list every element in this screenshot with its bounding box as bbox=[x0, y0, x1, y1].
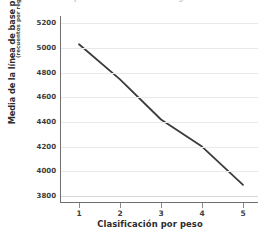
x-axis-title: Clasificación por peso bbox=[40, 219, 260, 229]
y-tick-label: 4600 bbox=[30, 93, 56, 101]
gridline bbox=[61, 97, 258, 98]
data-series-line bbox=[61, 16, 258, 202]
y-tick-label: 4800 bbox=[30, 69, 56, 77]
y-axis-tick-labels: 38004000420044004600480050005200 bbox=[28, 16, 56, 202]
plot-area bbox=[61, 16, 258, 202]
gridline bbox=[61, 73, 258, 74]
x-tick-mark bbox=[202, 203, 203, 208]
x-tick-mark bbox=[120, 203, 121, 208]
y-tick-label: 5200 bbox=[30, 19, 56, 27]
y-tick-label: 4000 bbox=[30, 167, 56, 175]
y-tick-label: 4200 bbox=[30, 143, 56, 151]
x-tick-label: 4 bbox=[193, 209, 211, 218]
y-tick-label: 3800 bbox=[30, 192, 56, 200]
x-tick-mark bbox=[161, 203, 162, 208]
chart-figure: Gráfico de perfil de la media marginal e… bbox=[0, 0, 270, 236]
x-tick-mark bbox=[79, 203, 80, 208]
y-tick-label: 5000 bbox=[30, 44, 56, 52]
chart-title: Gráfico de perfil de la media marginal e… bbox=[0, 0, 270, 2]
gridline bbox=[61, 48, 258, 49]
y-axis-subtitle: (recuentos por registro) bbox=[15, 0, 21, 58]
x-tick-label: 3 bbox=[152, 209, 170, 218]
x-tick-mark bbox=[243, 203, 244, 208]
gridline bbox=[61, 196, 258, 197]
gridline bbox=[61, 122, 258, 123]
x-tick-label: 1 bbox=[70, 209, 88, 218]
gridline bbox=[61, 147, 258, 148]
x-tick-label: 5 bbox=[234, 209, 252, 218]
gridline bbox=[61, 23, 258, 24]
y-tick-label: 4400 bbox=[30, 118, 56, 126]
y-axis-title-group: Media de la línea de base prefrontal izq… bbox=[0, 0, 24, 120]
x-tick-label: 2 bbox=[111, 209, 129, 218]
gridline bbox=[61, 171, 258, 172]
